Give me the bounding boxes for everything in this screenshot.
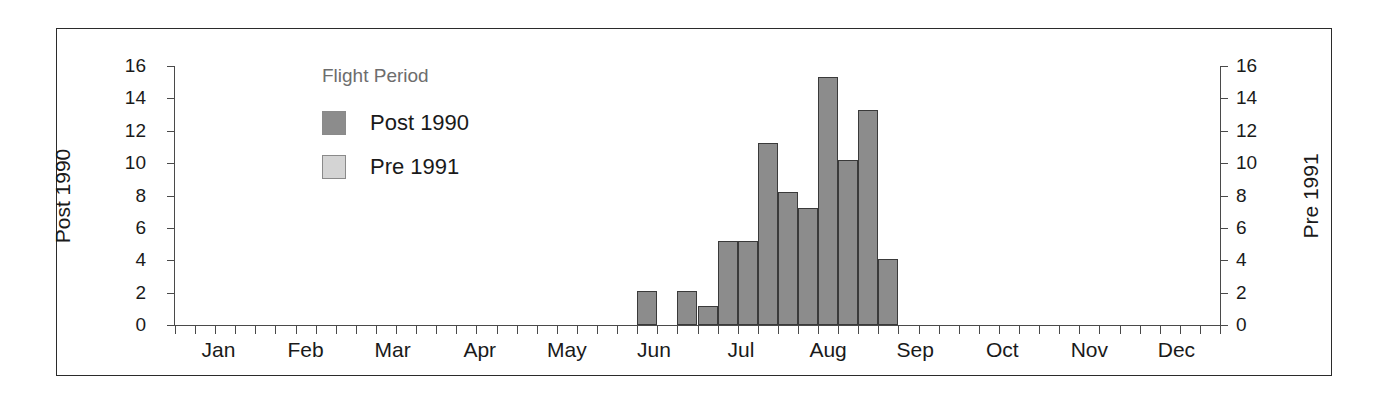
y-tick-label-left: 0 <box>135 315 146 334</box>
y-tick-left <box>167 228 174 229</box>
x-tick <box>255 326 256 334</box>
y-tick-right <box>1221 163 1228 164</box>
x-tick <box>858 326 859 334</box>
bar <box>778 192 798 325</box>
y-tick-right <box>1221 260 1228 261</box>
y-tick-left <box>167 325 174 326</box>
y-tick-label-left: 10 <box>125 153 146 172</box>
y-tick-left <box>167 98 174 99</box>
x-tick <box>175 326 176 334</box>
x-tick <box>637 326 638 334</box>
x-axis-month-label: Jan <box>202 339 236 360</box>
y-tick-right <box>1221 325 1228 326</box>
legend-label-post-1990: Post 1990 <box>370 112 469 134</box>
x-axis-month-label: Jun <box>637 339 671 360</box>
x-tick <box>537 326 538 334</box>
x-axis-month-label: Oct <box>986 339 1019 360</box>
x-tick <box>999 326 1000 334</box>
y-tick-label-left: 6 <box>135 218 146 237</box>
x-axis-month-label: Mar <box>375 339 411 360</box>
x-tick <box>577 326 578 334</box>
x-tick <box>476 326 477 334</box>
x-axis-month-label: Dec <box>1158 339 1195 360</box>
x-tick <box>316 326 317 334</box>
x-tick <box>517 326 518 334</box>
x-tick <box>838 326 839 334</box>
y-tick-label-left: 16 <box>125 56 146 75</box>
legend-swatch-pre-1991 <box>322 155 346 179</box>
x-tick <box>497 326 498 334</box>
y-tick-label-right: 16 <box>1236 56 1257 75</box>
x-tick <box>798 326 799 334</box>
y-tick-label-right: 8 <box>1236 186 1247 205</box>
x-tick <box>1079 326 1080 334</box>
x-tick <box>275 326 276 334</box>
x-tick <box>1220 326 1221 334</box>
x-tick <box>356 326 357 334</box>
x-axis-month-label: May <box>547 339 587 360</box>
x-tick <box>1099 326 1100 334</box>
bar <box>718 241 738 325</box>
x-tick <box>1140 326 1141 334</box>
x-tick <box>597 326 598 334</box>
x-tick <box>919 326 920 334</box>
x-tick <box>396 326 397 334</box>
y-tick-left <box>167 163 174 164</box>
chart-screenshot: Post 1990 Pre 1991 0246810121416 0246810… <box>0 0 1389 405</box>
bar <box>798 208 818 325</box>
x-tick <box>898 326 899 334</box>
y-tick-right <box>1221 228 1228 229</box>
y-tick-label-right: 14 <box>1236 88 1257 107</box>
x-axis-month-label: Aug <box>809 339 846 360</box>
x-tick <box>195 326 196 334</box>
bar <box>878 259 898 325</box>
left-axis-title: Post 1990 <box>52 149 73 244</box>
x-axis-month-label: Sep <box>897 339 934 360</box>
legend-label-pre-1991: Pre 1991 <box>370 156 459 178</box>
y-tick-label-right: 2 <box>1236 283 1247 302</box>
y-tick-left <box>167 66 174 67</box>
x-tick <box>1160 326 1161 334</box>
x-tick <box>878 326 879 334</box>
bar <box>838 160 858 325</box>
x-tick <box>215 326 216 334</box>
y-tick-left <box>167 260 174 261</box>
x-tick <box>959 326 960 334</box>
x-tick <box>235 326 236 334</box>
x-tick <box>1120 326 1121 334</box>
x-tick <box>758 326 759 334</box>
right-axis-title: Pre 1991 <box>1300 153 1321 238</box>
y-tick-left <box>167 293 174 294</box>
x-tick <box>677 326 678 334</box>
x-tick <box>336 326 337 334</box>
y-tick-label-left: 14 <box>125 88 146 107</box>
x-tick <box>1039 326 1040 334</box>
legend-title: Flight Period <box>322 66 582 85</box>
bar <box>738 241 758 325</box>
x-tick <box>939 326 940 334</box>
y-tick-left <box>167 196 174 197</box>
x-tick <box>296 326 297 334</box>
legend-item-pre-1991[interactable]: Pre 1991 <box>322 155 582 179</box>
bar <box>858 110 878 325</box>
bar <box>818 77 838 325</box>
x-tick <box>818 326 819 334</box>
y-tick-right <box>1221 131 1228 132</box>
x-tick <box>698 326 699 334</box>
legend: Flight Period Post 1990 Pre 1991 <box>322 66 582 199</box>
legend-swatch-post-1990 <box>322 111 346 135</box>
y-tick-label-left: 2 <box>135 283 146 302</box>
x-tick <box>1180 326 1181 334</box>
x-tick <box>436 326 437 334</box>
legend-item-post-1990[interactable]: Post 1990 <box>322 111 582 135</box>
bar <box>758 143 778 325</box>
x-axis-month-label: Feb <box>288 339 324 360</box>
y-tick-left <box>167 131 174 132</box>
y-tick-label-left: 12 <box>125 121 146 140</box>
x-tick <box>557 326 558 334</box>
y-tick-right <box>1221 196 1228 197</box>
x-tick <box>416 326 417 334</box>
bar <box>677 291 697 325</box>
x-axis-month-label: Apr <box>463 339 496 360</box>
y-tick-label-right: 0 <box>1236 315 1247 334</box>
